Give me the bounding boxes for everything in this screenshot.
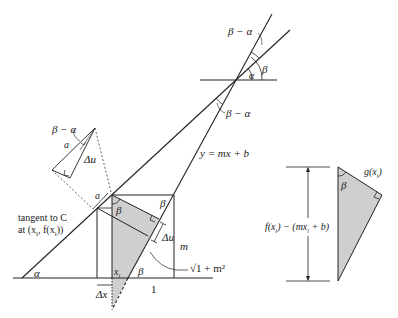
label-mid-beta-minus-alpha: β − α [226,108,250,119]
label-top-alpha: α [249,71,254,81]
inset-right-angle [64,170,69,176]
dashed-to-inset-right [95,128,111,192]
label-a: a [95,191,100,201]
inset-triangle-inner [80,128,95,150]
label-beta-corner-left: β [116,205,121,216]
label-base-beta: β [138,266,143,277]
label-tangent-line1: tangent to C [18,213,67,223]
label-beta-corner-right: β [160,198,165,209]
label-line-equation: y = mx + b [200,148,249,159]
beta-minus-alpha-arc-upper [251,52,259,58]
label-sqrt-1-plus-m2: √1 + m² [190,263,225,274]
label-base-alpha: α [34,268,40,279]
label-right-beta: β [341,180,346,191]
label-inset-delta-u: Δu [84,154,96,165]
label-top-beta-minus-alpha: β − α [228,26,252,37]
arrow-down [306,276,310,281]
dashed-to-inset-left [52,170,93,209]
arrow-up [306,167,310,172]
leader-sqrt [150,252,188,270]
label-g-xi: g(xi) [364,167,382,179]
label-f-minus-line: f(xi) − (mxi + b) [265,222,329,234]
label-inset-beta-minus-alpha: β − α [52,124,76,135]
label-xi: xi [114,267,120,279]
label-delta-x: Δx [96,289,107,300]
label-delta-u: Δu [162,232,174,243]
line-y-mx-b [128,14,272,278]
label-one: 1 [151,284,157,295]
tangent-line [22,30,290,278]
label-top-beta: β [262,64,267,75]
label-inset-a: a [64,140,69,150]
label-tangent-line2: at (xi, f(xi)) [18,225,63,238]
delta-u-tick-bot [151,240,157,243]
label-m: m [180,241,188,252]
